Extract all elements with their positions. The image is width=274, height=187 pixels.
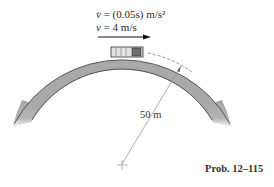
road-end-left [13, 100, 38, 126]
curved-road-diagram [0, 0, 274, 187]
accel-value: = (0.05s) m/s² [101, 8, 166, 20]
road-end-right [206, 100, 231, 126]
road-band [13, 60, 231, 126]
radius-label: 50 m [140, 109, 161, 120]
speed-value: = 4 m/s [101, 21, 137, 33]
acceleration-label: v̇ = (0.05s) m/s² [96, 8, 165, 20]
speed-label: v = 4 m/s [96, 21, 137, 33]
velocity-arrow-icon [98, 35, 151, 40]
radius-arrowhead-icon [177, 66, 181, 72]
car-icon [111, 47, 143, 57]
center-mark-icon [117, 160, 128, 170]
problem-caption: Prob. 12–115 [205, 163, 263, 174]
